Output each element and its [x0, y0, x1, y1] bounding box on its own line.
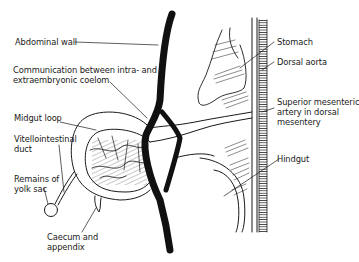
herniated-sac — [71, 112, 150, 200]
label-communication-coelom: Communication between intra- and extraem… — [13, 65, 157, 85]
dorsal-body-wall — [252, 18, 267, 232]
abdominal-wall — [145, 14, 180, 250]
label-hindgut: Hindgut — [277, 154, 309, 164]
label-abdominal-wall: Abdominal wall — [15, 37, 77, 47]
label-stomach: Stomach — [277, 37, 313, 47]
mesentery-hatching — [214, 66, 249, 195]
label-yolk-sac-remains: Remains of yolk sac — [14, 174, 59, 194]
label-vitellointestinal-duct: Vitellointestinal duct — [14, 134, 77, 154]
caecum-appendix — [95, 196, 101, 212]
label-caecum-appendix: Caecum and appendix — [47, 232, 98, 252]
label-midgut-loop: Midgut loop — [14, 113, 62, 123]
label-superior-mesenteric-artery: Superior mesenteric artery in dorsal mes… — [277, 97, 359, 127]
label-dorsal-aorta: Dorsal aorta — [277, 57, 327, 67]
